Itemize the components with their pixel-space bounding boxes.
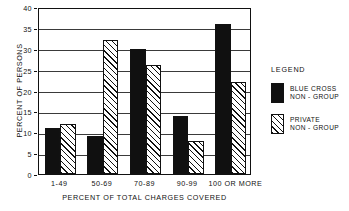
bar-blue-cross-1: [87, 136, 103, 174]
y-tick-label: 35: [6, 25, 32, 34]
x-tick-label: 70-89: [123, 179, 166, 188]
y-tick-mark: [34, 50, 37, 51]
bar-blue-cross-3: [173, 116, 189, 174]
y-tick-label: 15: [6, 108, 32, 117]
y-tick-mark: [34, 133, 37, 134]
y-tick-mark: [34, 154, 37, 155]
legend-label-blue-cross-line2: NON - GROUP: [290, 93, 339, 101]
legend-label-private-line2: NON - GROUP: [290, 124, 339, 132]
legend-title: LEGEND: [271, 65, 347, 74]
y-tick-mark: [34, 92, 37, 93]
x-tick-label: 50-69: [81, 179, 124, 188]
bar-private-2: [146, 65, 162, 174]
x-axis-title: PERCENT OF TOTAL CHARGES COVERED: [38, 193, 251, 202]
y-tick-label: 20: [6, 88, 32, 97]
y-tick-label: 25: [6, 67, 32, 76]
bar-private-3: [188, 141, 204, 174]
bar-private-1: [103, 40, 119, 174]
y-tick-label: 5: [6, 150, 32, 159]
legend-label-blue-cross: BLUE CROSS NON - GROUP: [290, 85, 339, 102]
plot-area: [38, 8, 251, 175]
legend-item-private: PRIVATE NON - GROUP: [271, 114, 347, 134]
bar-private-4: [231, 82, 247, 174]
x-tick-label: 90-99: [166, 179, 209, 188]
y-tick-mark: [34, 112, 37, 113]
bar-blue-cross-2: [130, 49, 146, 174]
y-tick-label: 40: [6, 4, 32, 13]
y-tick-mark: [34, 29, 37, 30]
x-tick-label: 1-49: [38, 179, 81, 188]
legend-swatch-blue-cross: [271, 83, 284, 103]
x-tick-label: 100 OR MORE: [208, 179, 251, 188]
bar-private-0: [60, 124, 76, 174]
bar-group-container: [39, 9, 250, 174]
bar-chart-figure: PERCENT OF PERSONS 0510152025303540 PERC…: [0, 0, 349, 211]
legend-label-blue-cross-line1: BLUE CROSS: [290, 85, 339, 93]
y-tick-mark: [34, 8, 37, 9]
y-tick-label: 10: [6, 129, 32, 138]
legend: LEGEND BLUE CROSS NON - GROUP PRIVATE NO…: [271, 65, 347, 145]
y-tick-mark: [34, 71, 37, 72]
bar-blue-cross-0: [45, 128, 61, 174]
legend-item-blue-cross: BLUE CROSS NON - GROUP: [271, 83, 347, 103]
bar-blue-cross-4: [215, 24, 231, 174]
legend-label-private-line1: PRIVATE: [290, 116, 339, 124]
y-tick-mark: [34, 175, 37, 176]
legend-label-private: PRIVATE NON - GROUP: [290, 116, 339, 133]
y-tick-label: 0: [6, 171, 32, 180]
y-tick-label: 30: [6, 46, 32, 55]
legend-swatch-private: [271, 114, 284, 134]
